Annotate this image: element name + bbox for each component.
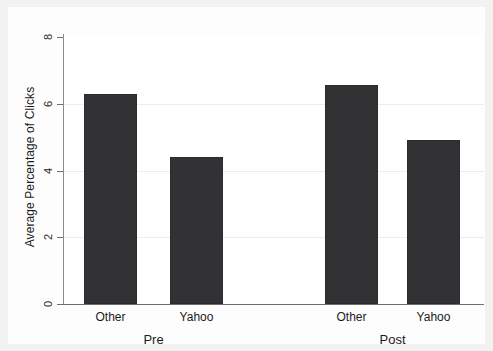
category-label-pre-other: Other	[71, 310, 151, 324]
chart-canvas: 02468 Average Percentage of Clicks Other…	[8, 7, 485, 344]
y-tick-mark-6	[57, 104, 63, 105]
category-label-post-other: Other	[312, 310, 392, 324]
y-tick-mark-2	[57, 237, 63, 238]
category-label-post-yahoo: Yahoo	[394, 310, 474, 324]
y-tick-label-6: 6	[41, 97, 55, 111]
bar-chart-figure: 02468 Average Percentage of Clicks Other…	[0, 0, 493, 351]
bar-post-other	[325, 85, 378, 304]
y-tick-label-8: 8	[41, 30, 55, 44]
bar-pre-yahoo	[170, 157, 223, 304]
y-axis-title: Average Percentage of Clicks	[23, 62, 37, 272]
group-label-pre: Pre	[104, 332, 204, 347]
y-tick-label-2: 2	[41, 230, 55, 244]
y-axis-line	[63, 34, 64, 305]
bar-pre-other	[84, 94, 137, 304]
y-tick-mark-0	[57, 304, 63, 305]
bar-post-yahoo	[407, 140, 460, 304]
category-label-pre-yahoo: Yahoo	[157, 310, 237, 324]
y-tick-label-4: 4	[41, 164, 55, 178]
x-axis-line	[63, 304, 484, 305]
y-tick-mark-8	[57, 37, 63, 38]
y-tick-mark-4	[57, 171, 63, 172]
y-tick-label-0: 0	[41, 297, 55, 311]
group-label-post: Post	[343, 332, 443, 347]
